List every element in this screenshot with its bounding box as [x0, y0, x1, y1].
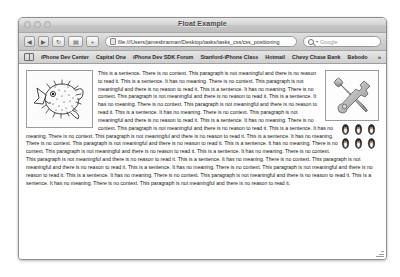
- bookmark-item-iphone-dev-center[interactable]: iPhone Dev Center: [41, 54, 89, 60]
- page-content: This is a sentence. There is no context.…: [19, 64, 386, 259]
- bookmarks-bar: iPhone Dev Center Capital One iPhone Dev…: [19, 51, 386, 64]
- penguin-icon: [367, 138, 376, 149]
- penguin-icon: [341, 124, 350, 135]
- chevron-down-icon[interactable]: ▾: [316, 39, 318, 44]
- pufferfish-image: [26, 70, 93, 128]
- search-placeholder: Google: [320, 39, 337, 45]
- safari-window: Float Example ◀ ▶ ↻ ▤ + file:///Users/ja…: [18, 17, 387, 260]
- url-text: file:///Users/jamesbrannan/Desktop/tasks…: [118, 39, 280, 45]
- bookmark-item-bebodo[interactable]: Bebodo: [348, 54, 368, 60]
- penguin-icon: [341, 138, 350, 149]
- search-input[interactable]: ▾ Google: [303, 36, 381, 47]
- window-title: Float Example: [19, 20, 386, 27]
- float-article: This is a sentence. There is no context.…: [26, 70, 379, 187]
- bookmark-item-capital-one[interactable]: Capital One: [96, 54, 126, 60]
- bookmark-item-stanford-iphone-class[interactable]: Stanford-iPhone Class: [200, 54, 258, 60]
- penguin-icon: [367, 124, 376, 135]
- page-icon: [110, 38, 116, 45]
- penguin-row: [341, 124, 376, 135]
- tools-image: [325, 70, 379, 121]
- penguin-row: [341, 138, 376, 149]
- bookmark-item-hotmail[interactable]: Hotmail: [265, 54, 285, 60]
- add-bookmark-button[interactable]: +: [86, 36, 99, 47]
- back-button[interactable]: ◀: [24, 36, 35, 47]
- browser-toolbar: ◀ ▶ ↻ ▤ + file:///Users/jamesbrannan/Des…: [19, 33, 386, 51]
- bookmark-item-iphone-dev-sdk-forum[interactable]: iPhone Dev SDK Forum: [133, 54, 194, 60]
- paragraph-text-2: This is a sentence. It has no meaning. T…: [26, 140, 373, 185]
- resize-grip[interactable]: [375, 248, 385, 258]
- penguin-icon: [354, 124, 363, 135]
- penguin-icon: [354, 138, 363, 149]
- address-bar[interactable]: file:///Users/jamesbrannan/Desktop/tasks…: [105, 36, 297, 47]
- penguin-icon-grid: [341, 124, 376, 149]
- search-icon: [308, 39, 314, 45]
- wrench-screwdriver-icon: [330, 75, 374, 117]
- book-icon[interactable]: [24, 53, 34, 61]
- title-bar[interactable]: Float Example: [19, 18, 386, 33]
- forward-button[interactable]: ▶: [38, 36, 49, 47]
- reader-icon[interactable]: ▤: [68, 36, 83, 47]
- bookmark-item-chevy-chase-bank[interactable]: Chevy Chase Bank: [292, 54, 341, 60]
- bookmarks-overflow-icon[interactable]: »: [378, 54, 381, 60]
- reload-icon[interactable]: ↻: [52, 36, 65, 47]
- pufferfish-icon: [32, 75, 88, 123]
